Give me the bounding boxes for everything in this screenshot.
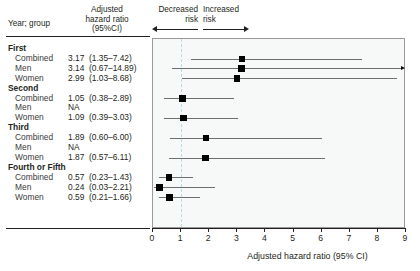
row-label: Men [15,182,31,192]
row-value: 3.14 (0.67–14.89) [68,63,136,73]
confidence-interval-line [159,197,200,198]
row-label: Men [15,102,31,112]
increased-risk-label: Increased risk [203,5,251,25]
confidence-interval-line [172,68,402,69]
row-label: Women [15,192,44,202]
ci-overflow-arrow-icon [401,66,405,70]
point-estimate-marker [203,135,210,142]
right-arrow-icon [203,25,249,34]
x-axis-tick [349,228,350,232]
row-value: 0.24 (0.03–2.21) [68,182,132,192]
confidence-interval-line [191,59,362,60]
group-header: Fourth or Fifth [8,162,66,172]
row-label: Combined [15,93,53,103]
row-value: 1.87 (0.57–6.11) [68,152,131,162]
x-axis-label: Adjusted hazard ratio (95% CI) [200,251,415,261]
point-estimate-marker [166,174,173,181]
x-axis-tick-label: 9 [396,233,414,243]
confidence-interval-line [159,177,193,178]
point-estimate-marker [202,155,209,162]
group-header: Third [8,122,29,132]
row-label: Men [15,142,31,152]
column-header-year-group: Year; group [8,19,50,29]
x-axis-tick [264,228,265,232]
reference-line [181,39,182,227]
row-value: 1.09 (0.39–3.03) [68,112,132,122]
x-axis-tick-label: 7 [340,233,358,243]
row-label: Combined [15,53,53,63]
row-label: Men [15,63,31,73]
row-label: Women [15,73,44,83]
group-header: First [8,43,26,53]
row-label: Combined [15,132,53,142]
point-estimate-marker [234,75,241,82]
x-axis-tick-label: 3 [227,233,245,243]
confidence-interval-line [164,98,235,99]
left-arrow-icon [152,25,198,34]
table-top-rule [6,36,150,37]
x-axis-tick-label: 6 [312,233,330,243]
x-axis-tick [208,228,209,232]
x-axis-line [152,228,405,229]
confidence-interval-line [182,78,397,79]
confidence-interval-line [164,118,238,119]
point-estimate-marker [156,184,163,191]
row-value: 0.59 (0.21–1.66) [68,192,132,202]
row-value: 3.17 (1.35–7.42) [68,53,132,63]
point-estimate-marker [238,65,245,72]
row-value: 1.05 (0.38–2.89) [68,93,132,103]
table-bottom-rule [6,228,150,229]
row-label: Combined [15,172,53,182]
column-header-adjusted-hazard-ratio: Adjusted hazard ratio (95%CI) [68,5,146,34]
row-label: Women [15,152,44,162]
x-axis-tick-label: 8 [368,233,386,243]
x-axis-tick-label: 4 [255,233,273,243]
confidence-interval-line [154,187,215,188]
x-axis-tick [236,228,237,232]
row-value: NA [68,142,80,152]
x-axis-tick [377,228,378,232]
x-axis-tick-label: 0 [143,233,161,243]
x-axis-tick [293,228,294,232]
row-value: 1.89 (0.60–6.00) [68,132,132,142]
decreased-risk-label: Decreased risk [150,5,198,25]
row-value: 0.57 (0.23–1.43) [68,172,132,182]
x-axis-tick-label: 1 [171,233,189,243]
x-axis-tick [152,228,153,232]
point-estimate-marker [179,95,186,102]
point-estimate-marker [180,115,187,122]
confidence-interval-line [169,158,325,159]
forest-plot-figure: Year; group Adjusted hazard ratio (95%CI… [0,0,420,271]
group-header: Second [8,83,38,93]
x-axis-tick [321,228,322,232]
x-axis-tick [180,228,181,232]
row-value: NA [68,102,80,112]
x-axis-tick-label: 5 [284,233,302,243]
row-label: Women [15,112,44,122]
row-value: 2.99 (1.03–8.68) [68,73,132,83]
plot-area [152,38,405,228]
confidence-interval-line [170,138,322,139]
point-estimate-marker [239,56,246,63]
point-estimate-marker [166,194,173,201]
x-axis-tick-label: 2 [199,233,217,243]
x-axis-tick [405,228,406,232]
